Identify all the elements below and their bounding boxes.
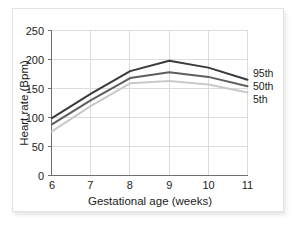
figure-root: 250 200 150 100 50 0 6 7 8 9 10 11 Gesta… (0, 0, 299, 229)
y-tick-label-0: 0 (38, 170, 44, 182)
heart-rate-line-chart: 250 200 150 100 50 0 6 7 8 9 10 11 Gesta… (13, 9, 285, 213)
y-tick-label-50: 50 (32, 141, 44, 153)
series-label-5th: 5th (253, 93, 268, 105)
y-axis-tickmarks (48, 31, 52, 176)
x-tick-label-9: 9 (166, 179, 172, 191)
x-tick-label-7: 7 (87, 179, 93, 191)
x-tick-label-8: 8 (127, 179, 133, 191)
series-label-95th: 95th (253, 67, 274, 79)
x-tick-label-11: 11 (242, 179, 253, 191)
x-axis-title: Gestational age (weeks) (88, 195, 212, 207)
chart-card: 250 200 150 100 50 0 6 7 8 9 10 11 Gesta… (12, 8, 284, 212)
y-tick-label-250: 250 (26, 25, 44, 37)
x-tick-label-10: 10 (202, 179, 214, 191)
x-axis-tick-labels: 6 7 8 9 10 11 (49, 179, 253, 191)
series-label-50th: 50th (253, 80, 274, 92)
y-axis-title: Heart rate (Bpm) (18, 60, 30, 146)
plot-area-background (51, 30, 248, 175)
x-tick-label-6: 6 (49, 179, 55, 191)
